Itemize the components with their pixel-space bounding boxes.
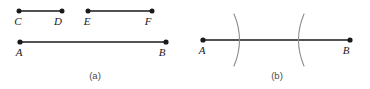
point-B-dot-panel-b <box>347 37 352 42</box>
point-B-label-panel-b: B <box>343 44 350 56</box>
point-E-label: E <box>83 15 91 27</box>
point-D-label: D <box>53 15 62 27</box>
panel-a-caption: (a) <box>89 70 101 81</box>
panel-b-caption: (b) <box>271 70 283 81</box>
point-A-dot-panel-b <box>200 37 205 42</box>
geometry-figure-canvas: C D E F A B (a) <box>0 0 370 89</box>
point-A-label-panel-b: A <box>198 44 206 56</box>
figure-root: C D E F A B (a) <box>0 0 370 89</box>
point-A-dot-panel-a <box>17 39 22 44</box>
point-B-dot-panel-a <box>163 39 168 44</box>
figure-background <box>0 0 370 89</box>
point-D-dot <box>60 9 65 14</box>
point-B-label-panel-a: B <box>159 46 166 58</box>
point-A-label-panel-a: A <box>15 46 23 58</box>
point-E-dot <box>86 9 91 14</box>
point-C-dot <box>17 9 22 14</box>
point-F-label: F <box>144 15 152 27</box>
point-C-label: C <box>14 15 22 27</box>
point-F-dot <box>150 9 155 14</box>
